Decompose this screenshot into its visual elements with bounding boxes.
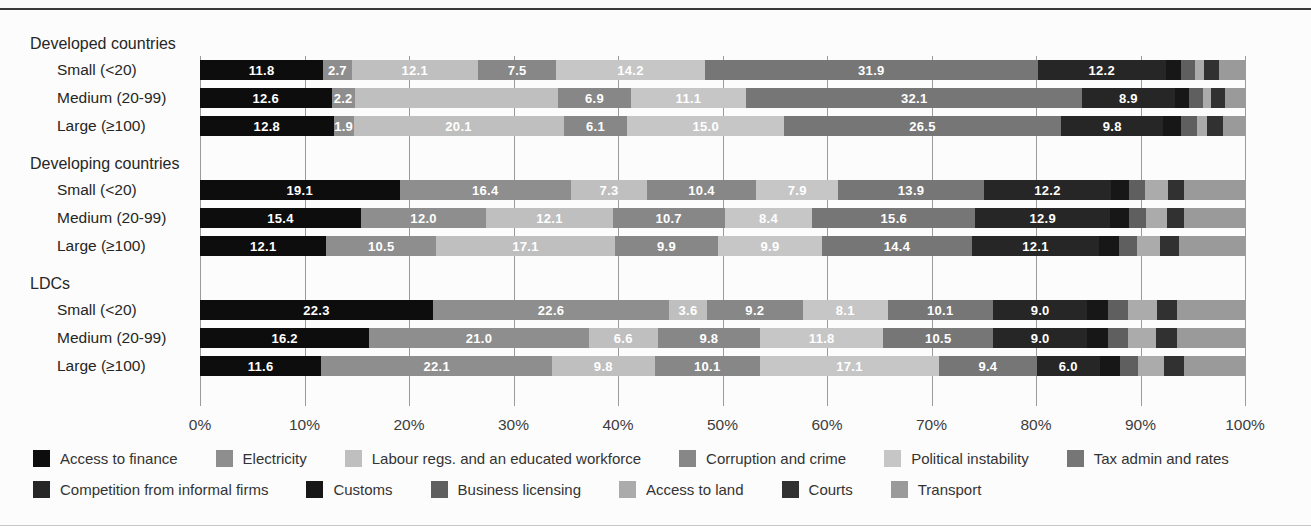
bar-row: Large (≥100)11.622.19.810.117.19.46.0 — [0, 356, 1311, 376]
legend-item-access-to-land: Access to land — [619, 481, 744, 498]
bar-segment-customs — [1163, 116, 1181, 136]
bar-segment-competition-from-informal-firms: 9.8 — [1061, 116, 1163, 136]
bar-segment-access-to-finance: 11.8 — [200, 60, 323, 80]
legend-swatch-transport — [891, 481, 908, 498]
bar-segment-access-to-land — [1137, 236, 1160, 256]
segment-value: 9.8 — [594, 359, 613, 374]
stacked-bar-chart: Developed countriesSmall (<20)11.82.712.… — [0, 34, 1311, 384]
bar-segment-corruption-and-crime: 9.2 — [707, 300, 803, 320]
legend-label: Political instability — [911, 450, 1029, 467]
bar-segment-competition-from-informal-firms: 8.9 — [1082, 88, 1175, 108]
bar-segment-transport — [1184, 356, 1245, 376]
group-label-ldcs: LDCs — [0, 274, 1311, 294]
segment-value: 22.6 — [538, 303, 565, 318]
bar-segment-courts — [1156, 328, 1177, 348]
segment-value: 11.6 — [248, 359, 274, 374]
legend-swatch-access-to-finance — [33, 450, 50, 467]
legend-swatch-competition-from-informal-firms — [33, 481, 50, 498]
legend-row: Competition from informal firmsCustomsBu… — [33, 481, 1295, 498]
legend-label: Business licensing — [458, 481, 581, 498]
bar-segment-tax-admin-and-rates: 32.1 — [746, 88, 1081, 108]
bar-segment-corruption-and-crime: 10.1 — [655, 356, 761, 376]
bar-segment-business-licensing — [1108, 328, 1128, 348]
group-label-developed-countries: Developed countries — [0, 34, 1311, 54]
bar-segment-courts — [1167, 208, 1185, 228]
legend-swatch-labour-regs-and-an-educated-workforce — [345, 450, 362, 467]
legend-swatch-tax-admin-and-rates — [1067, 450, 1084, 467]
bar-segment-tax-admin-and-rates: 31.9 — [705, 60, 1038, 80]
legend-swatch-electricity — [216, 450, 233, 467]
bar-segment-political-instability: 14.2 — [556, 60, 704, 80]
row-label: Small (<20) — [0, 180, 200, 200]
bar-segment-corruption-and-crime: 9.8 — [658, 328, 760, 348]
legend-row: Access to financeElectricityLabour regs.… — [33, 450, 1295, 467]
segment-value: 8.9 — [1119, 91, 1138, 106]
row-label: Large (≥100) — [0, 116, 200, 136]
bar-segment-customs — [1100, 356, 1120, 376]
x-tick-label: 80% — [1020, 416, 1051, 434]
legend-label: Courts — [809, 481, 853, 498]
segment-value: 31.9 — [858, 63, 885, 78]
segment-value: 10.4 — [688, 183, 715, 198]
bar-segment-business-licensing — [1119, 236, 1138, 256]
legend-label: Labour regs. and an educated workforce — [372, 450, 641, 467]
segment-value: 8.4 — [759, 211, 778, 226]
bar-segment-tax-admin-and-rates: 26.5 — [784, 116, 1061, 136]
segment-value: 12.1 — [250, 239, 277, 254]
legend-label: Tax admin and rates — [1094, 450, 1229, 467]
segment-value: 12.2 — [1089, 63, 1116, 78]
bar-segment-labour-regs-and-an-educated-workforce: 7.3 — [571, 180, 647, 200]
legend-label: Electricity — [243, 450, 307, 467]
bar-row: Large (≥100)12.110.517.19.99.914.412.1 — [0, 236, 1311, 256]
legend-item-corruption-and-crime: Corruption and crime — [679, 450, 846, 467]
bar-segment-customs — [1087, 328, 1108, 348]
bar-segment-customs — [1166, 60, 1182, 80]
bar-segment-political-instability: 15.0 — [627, 116, 784, 136]
bar-segment-business-licensing — [1129, 208, 1146, 228]
bar-segment-customs — [1111, 180, 1129, 200]
segment-value: 14.4 — [884, 239, 911, 254]
bar-row: Large (≥100)12.81.920.16.115.026.59.8 — [0, 116, 1311, 136]
segment-value: 11.8 — [249, 63, 275, 78]
bar-segment-corruption-and-crime: 6.1 — [564, 116, 628, 136]
stacked-bar: 11.622.19.810.117.19.46.0 — [200, 356, 1245, 376]
segment-value: 9.4 — [978, 359, 997, 374]
segment-value: 12.1 — [401, 63, 428, 78]
bar-segment-corruption-and-crime: 10.4 — [647, 180, 756, 200]
x-tick-label: 50% — [707, 416, 738, 434]
legend-item-business-licensing: Business licensing — [431, 481, 581, 498]
segment-value: 9.0 — [1031, 331, 1050, 346]
bar-segment-access-to-land — [1195, 60, 1204, 80]
bar-segment-access-to-land — [1138, 356, 1164, 376]
legend-item-access-to-finance: Access to finance — [33, 450, 178, 467]
bar-segment-access-to-finance: 15.4 — [200, 208, 361, 228]
segment-value: 6.1 — [586, 119, 605, 134]
bar-row: Medium (20-99)16.221.06.69.811.810.59.0 — [0, 328, 1311, 348]
bar-segment-electricity: 21.0 — [369, 328, 588, 348]
segment-value: 13.9 — [898, 183, 925, 198]
bar-segment-political-instability: 9.9 — [718, 236, 821, 256]
segment-value: 10.7 — [655, 211, 682, 226]
bar-segment-access-to-finance: 11.6 — [200, 356, 321, 376]
bar-segment-tax-admin-and-rates: 13.9 — [838, 180, 983, 200]
bar-segment-political-instability: 7.9 — [756, 180, 839, 200]
row-label: Medium (20-99) — [0, 88, 200, 108]
legend-item-transport: Transport — [891, 481, 982, 498]
bar-segment-courts — [1168, 180, 1185, 200]
segment-value: 7.9 — [788, 183, 807, 198]
bar-segment-access-to-finance: 12.1 — [200, 236, 326, 256]
bar-segment-business-licensing — [1181, 116, 1197, 136]
stacked-bar: 12.110.517.19.99.914.412.1 — [200, 236, 1245, 256]
bar-segment-political-instability: 17.1 — [760, 356, 939, 376]
segment-value: 22.1 — [423, 359, 450, 374]
group-label-developing-countries: Developing countries — [0, 154, 1311, 174]
bar-segment-transport — [1184, 208, 1245, 228]
legend-item-labour-regs-and-an-educated-workforce: Labour regs. and an educated workforce — [345, 450, 641, 467]
legend-swatch-political-instability — [884, 450, 901, 467]
stacked-bar: 11.82.712.17.514.231.912.2 — [200, 60, 1245, 80]
bar-segment-tax-admin-and-rates: 15.6 — [812, 208, 975, 228]
x-tick-label: 20% — [393, 416, 424, 434]
bar-segment-transport — [1225, 88, 1245, 108]
chart-rows: Developed countriesSmall (<20)11.82.712.… — [0, 34, 1311, 376]
legend-item-electricity: Electricity — [216, 450, 307, 467]
